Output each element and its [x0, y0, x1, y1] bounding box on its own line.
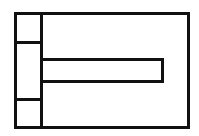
horizontal-bar	[40, 58, 164, 83]
left-top-cell	[14, 12, 43, 44]
left-bottom-cell	[14, 98, 43, 129]
